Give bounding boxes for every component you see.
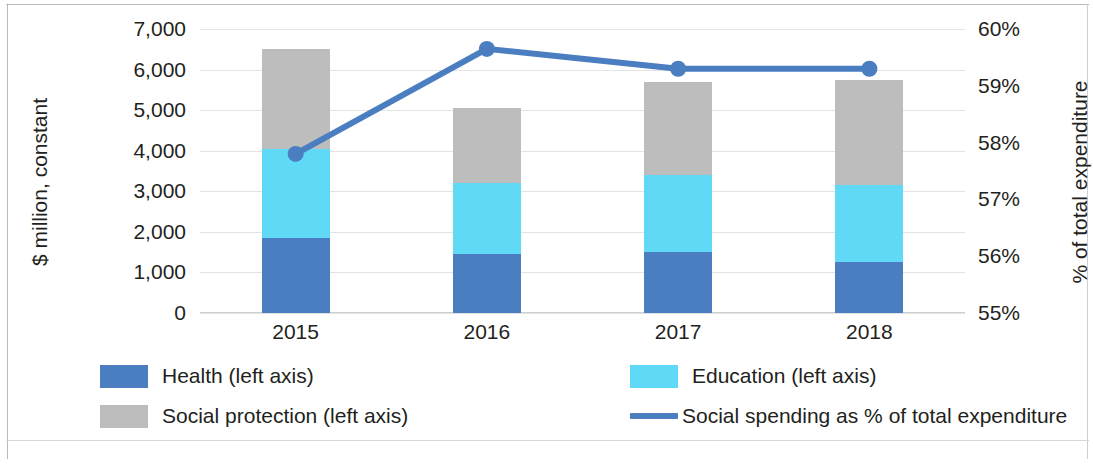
- legend-label-social-spending: Social spending as % of total expenditur…: [682, 404, 1067, 428]
- bar-group[interactable]: [644, 82, 712, 313]
- line-path: [296, 49, 870, 154]
- left-axis-tick-label: 6,000: [133, 58, 186, 82]
- right-axis-tick-label: 58%: [978, 131, 1020, 155]
- bar-segment[interactable]: [644, 175, 712, 252]
- right-axis-tick-label: 55%: [978, 301, 1020, 325]
- gridline: [200, 29, 965, 30]
- bar-segment[interactable]: [644, 82, 712, 175]
- left-axis-tick-label: 1,000: [133, 260, 186, 284]
- left-axis-tick-label: 0: [174, 301, 186, 325]
- x-axis-tick-label: 2016: [464, 320, 511, 344]
- bar-segment[interactable]: [453, 183, 521, 254]
- bar-segment[interactable]: [644, 252, 712, 313]
- legend-item-social-spending-line[interactable]: Social spending as % of total expenditur…: [630, 404, 1067, 428]
- bar-group[interactable]: [835, 80, 903, 313]
- chart-legend: Health (left axis) Education (left axis)…: [100, 362, 1040, 436]
- bar-segment[interactable]: [453, 254, 521, 313]
- x-axis-ticks: 2015201620172018: [200, 320, 965, 354]
- bar-segment[interactable]: [453, 108, 521, 183]
- bar-segment[interactable]: [262, 49, 330, 148]
- x-axis-tick-label: 2015: [272, 320, 319, 344]
- bar-segment[interactable]: [835, 185, 903, 262]
- legend-swatch-line-icon: [630, 413, 678, 419]
- line-marker[interactable]: [479, 41, 495, 57]
- bar-segment[interactable]: [835, 80, 903, 185]
- gridline: [200, 313, 965, 314]
- right-axis-tick-label: 56%: [978, 244, 1020, 268]
- legend-label-education: Education (left axis): [692, 364, 876, 388]
- x-axis-tick-label: 2017: [655, 320, 702, 344]
- x-axis-tick-label: 2018: [846, 320, 893, 344]
- left-axis-tick-label: 7,000: [133, 17, 186, 41]
- legend-label-health: Health (left axis): [162, 364, 314, 388]
- legend-swatch-social-protection-icon: [100, 405, 148, 428]
- legend-swatch-education-icon: [630, 365, 678, 388]
- chart-page: $ million, constant % of total expenditu…: [0, 0, 1093, 464]
- bar-group[interactable]: [262, 49, 330, 313]
- right-axis-ticks: 55%56%57%58%59%60%: [978, 29, 1048, 313]
- right-axis-tick-label: 57%: [978, 187, 1020, 211]
- legend-item-health[interactable]: Health (left axis): [100, 364, 314, 388]
- bar-segment[interactable]: [262, 238, 330, 313]
- right-axis-tick-label: 60%: [978, 17, 1020, 41]
- frame-top-border: [6, 4, 1089, 5]
- bar-group[interactable]: [453, 108, 521, 313]
- plot-area: [200, 29, 965, 313]
- legend-label-social-protection: Social protection (left axis): [162, 404, 408, 428]
- bar-segment[interactable]: [835, 262, 903, 313]
- left-axis-tick-label: 5,000: [133, 98, 186, 122]
- bar-segment[interactable]: [262, 149, 330, 238]
- legend-item-education[interactable]: Education (left axis): [630, 364, 876, 388]
- left-axis-ticks: 01,0002,0003,0004,0005,0006,0007,000: [60, 29, 186, 313]
- right-axis-tick-label: 59%: [978, 74, 1020, 98]
- right-axis-title: % of total expenditure: [1068, 37, 1092, 327]
- left-axis-tick-label: 3,000: [133, 179, 186, 203]
- left-axis-title: $ million, constant: [28, 42, 52, 322]
- legend-item-social-protection[interactable]: Social protection (left axis): [100, 404, 408, 428]
- left-axis-tick-label: 2,000: [133, 220, 186, 244]
- left-axis-tick-label: 4,000: [133, 139, 186, 163]
- frame-left-border: [7, 4, 8, 459]
- legend-swatch-health-icon: [100, 365, 148, 388]
- frame-bottom-border: [6, 440, 1089, 441]
